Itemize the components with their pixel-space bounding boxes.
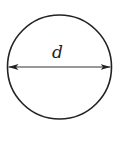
diameter-label: d (52, 42, 63, 62)
circle-diameter-diagram: d (0, 0, 128, 147)
